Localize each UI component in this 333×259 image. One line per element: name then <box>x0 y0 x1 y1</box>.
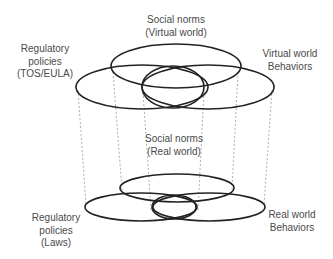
label-line: (Real world) <box>145 146 203 159</box>
label-line: Social norms <box>145 14 207 27</box>
label-behaviors-real: Real world Behaviors <box>268 209 315 234</box>
ellipse-social-real <box>120 174 234 202</box>
label-line: Regulatory <box>17 43 73 56</box>
label-regulatory-virtual: Regulatory policies (TOS/EULA) <box>17 43 73 81</box>
virtual-world-venn <box>76 44 274 109</box>
label-line: policies <box>32 225 80 238</box>
ellipse-behaviors-real <box>153 193 265 221</box>
label-behaviors-virtual: Virtual world Behaviors <box>263 48 318 73</box>
label-social-norms-real: Social norms (Real world) <box>145 133 203 158</box>
label-line: Behaviors <box>268 222 315 235</box>
label-line: Regulatory <box>32 212 80 225</box>
label-line: Virtual world <box>263 48 318 61</box>
label-regulatory-real: Regulatory policies (Laws) <box>32 212 80 250</box>
label-social-norms-virtual: Social norms (Virtual world) <box>145 14 207 39</box>
label-line: Behaviors <box>263 61 318 74</box>
label-line: (Virtual world) <box>145 27 207 40</box>
label-line: Real world <box>268 209 315 222</box>
real-world-venn <box>85 174 265 221</box>
ellipse-regulatory-real <box>85 193 197 221</box>
label-line: policies <box>17 56 73 69</box>
label-line: (TOS/EULA) <box>17 68 73 81</box>
ellipse-core-real <box>152 195 196 219</box>
label-line: Social norms <box>145 133 203 146</box>
label-line: (Laws) <box>32 237 80 250</box>
